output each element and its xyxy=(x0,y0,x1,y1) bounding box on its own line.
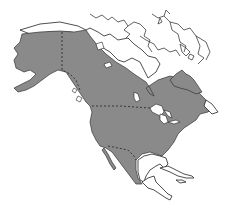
north-america-map xyxy=(0,0,229,216)
central-america xyxy=(142,166,194,200)
range-map xyxy=(0,0,229,216)
